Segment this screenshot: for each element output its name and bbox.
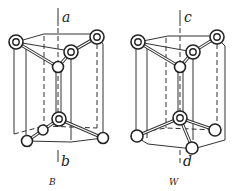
atom-center-upper bbox=[53, 62, 64, 73]
axis-label-c: c bbox=[184, 9, 192, 25]
caption-w: W bbox=[169, 177, 179, 187]
bottom-hexagon-front bbox=[27, 138, 103, 142]
atom-center-upper bbox=[175, 62, 186, 73]
bottom-hexagon-front bbox=[138, 138, 225, 149]
atom-center-lower bbox=[173, 111, 187, 125]
atom-bottom-mid bbox=[38, 125, 48, 135]
top-hexagon-back bbox=[138, 36, 217, 42]
atom-top-right bbox=[90, 30, 104, 44]
atom-top-left bbox=[9, 35, 23, 49]
caption-b: B bbox=[48, 177, 56, 187]
atom-bottom-right bbox=[98, 133, 109, 144]
atom-bottom-left bbox=[22, 136, 33, 147]
figure-w: c d W bbox=[131, 9, 225, 187]
crystal-structure-diagram: a b B bbox=[0, 0, 238, 191]
atom-bottom-right bbox=[209, 124, 221, 136]
atom-top-right bbox=[210, 30, 224, 44]
atom-bottom-left bbox=[131, 130, 143, 142]
top-hexagon-back bbox=[16, 34, 97, 42]
axis-label-b: b bbox=[61, 153, 70, 169]
atom-top-left bbox=[131, 35, 145, 49]
atom-center-lower bbox=[52, 112, 66, 126]
figure-b: a b B bbox=[9, 8, 109, 187]
atom-top-front bbox=[186, 45, 200, 59]
axis-label-d: d bbox=[183, 153, 192, 169]
atom-top-front bbox=[64, 45, 78, 59]
axis-label-a: a bbox=[62, 9, 70, 25]
